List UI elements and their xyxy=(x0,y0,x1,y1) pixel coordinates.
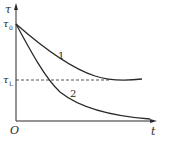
curve-1-label: 1 xyxy=(58,50,64,61)
tau-l-subscript: L xyxy=(9,80,13,87)
origin-label: O xyxy=(10,124,19,137)
x-axis-arrow-icon xyxy=(150,119,157,123)
x-axis-label: t xyxy=(151,125,156,138)
curve-2-label: 2 xyxy=(70,88,76,99)
tau-0-subscript: 0 xyxy=(9,24,13,31)
curve-1 xyxy=(16,24,142,80)
y-axis-arrow-icon xyxy=(14,3,18,10)
diagram-canvas: τ τ 0 τ L O t 1 2 xyxy=(0,0,169,143)
y-axis-label: τ xyxy=(5,3,12,16)
